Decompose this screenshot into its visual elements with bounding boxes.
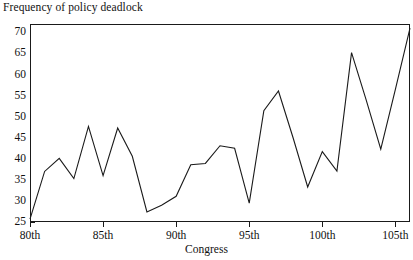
x-axis-tick-mark bbox=[30, 222, 31, 227]
chart-page: Frequency of policy deadlock 25303540455… bbox=[0, 0, 413, 260]
y-axis-tick-label: 60 bbox=[15, 69, 27, 81]
y-axis-tick-label: 55 bbox=[15, 90, 27, 102]
deadlock-line-series bbox=[30, 24, 410, 222]
y-axis-tick-label: 40 bbox=[15, 153, 27, 165]
x-axis-tick-label: 80th bbox=[20, 229, 40, 241]
x-axis-tick-mark bbox=[176, 222, 177, 227]
y-axis-tick-label: 35 bbox=[15, 174, 27, 186]
y-axis-tick-label: 65 bbox=[15, 47, 27, 59]
y-axis-tick-label: 50 bbox=[15, 111, 27, 123]
y-axis-tick-label: 70 bbox=[15, 26, 27, 38]
y-axis-tick-label: 30 bbox=[15, 195, 27, 207]
x-axis-tick-mark bbox=[249, 222, 250, 227]
x-axis-tick-label: 105th bbox=[382, 229, 408, 241]
plot-area bbox=[30, 24, 410, 222]
x-axis-tick-label: 90th bbox=[166, 229, 186, 241]
y-axis-tick-labels: 25303540455055606570 bbox=[0, 0, 26, 260]
y-axis-tick-label: 25 bbox=[15, 216, 27, 228]
y-axis-tick-label: 45 bbox=[15, 132, 27, 144]
x-axis-tick-label: 85th bbox=[93, 229, 113, 241]
x-axis-tick-mark bbox=[395, 222, 396, 227]
x-axis-tick-label: 100th bbox=[309, 229, 335, 241]
series-polyline bbox=[30, 28, 410, 219]
x-axis-tick-label: 95th bbox=[239, 229, 259, 241]
x-axis-title: Congress bbox=[0, 243, 413, 256]
x-axis-tick-mark bbox=[103, 222, 104, 227]
x-axis-tick-mark bbox=[322, 222, 323, 227]
